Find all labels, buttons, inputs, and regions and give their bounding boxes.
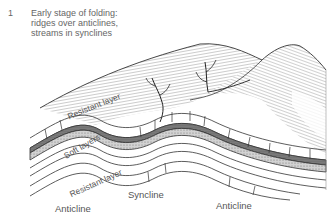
label-syncline: Syncline — [128, 189, 164, 200]
folded-strata-block-diagram — [0, 0, 332, 217]
label-anticline-right: Anticline — [216, 200, 252, 211]
label-anticline-left: Anticline — [55, 203, 91, 214]
land-surface — [40, 44, 326, 155]
